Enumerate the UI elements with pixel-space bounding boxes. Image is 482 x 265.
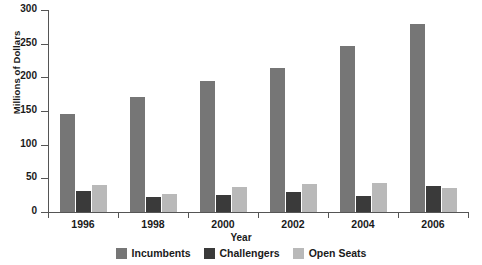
legend-label: Challengers: [220, 247, 280, 259]
legend-swatch-icon: [204, 248, 215, 259]
bar-group: [398, 10, 468, 212]
y-tick-label: 250: [20, 37, 37, 48]
legend-item-challengers: Challengers: [204, 247, 280, 259]
plot-area: 050100150200250300 199619982000200220042…: [48, 10, 468, 212]
bar-group: [118, 10, 188, 212]
bar-challengers-1996: [76, 191, 91, 212]
bar-group: [328, 10, 398, 212]
y-tick: 100: [41, 145, 48, 146]
bar-group: [258, 10, 328, 212]
bar-challengers-2002: [286, 192, 301, 212]
legend-label: Open Seats: [309, 247, 367, 259]
bar-challengers-2004: [356, 196, 371, 212]
y-tick-label: 300: [20, 3, 37, 14]
legend-label: Incumbents: [132, 247, 191, 259]
x-tick-label: 2004: [328, 218, 398, 230]
x-axis-title: Year: [0, 232, 482, 243]
legend-swatch-icon: [293, 248, 304, 259]
x-tick-label: 1998: [118, 218, 188, 230]
y-tick-label: 150: [20, 104, 37, 115]
y-tick-label: 100: [20, 138, 37, 149]
bar-chart: Millions of Dollars 050100150200250300 1…: [0, 0, 482, 265]
y-tick: 200: [41, 77, 48, 78]
bar-incumbents-2006: [410, 24, 425, 212]
y-tick-label: 200: [20, 70, 37, 81]
x-tick-label: 2000: [188, 218, 258, 230]
bar-challengers-2000: [216, 195, 231, 212]
bar-incumbents-2000: [200, 81, 215, 212]
bar-group: [48, 10, 118, 212]
bar-incumbents-2004: [340, 46, 355, 212]
y-tick: 250: [41, 44, 48, 45]
y-tick-label: 50: [26, 171, 37, 182]
bar-open-seats-1996: [92, 185, 107, 212]
bar-challengers-2006: [426, 186, 441, 212]
bar-group: [188, 10, 258, 212]
bar-incumbents-1996: [60, 114, 75, 212]
x-tick-label: 1996: [48, 218, 118, 230]
x-tick-label: 2006: [398, 218, 468, 230]
legend-item-incumbents: Incumbents: [116, 247, 191, 259]
legend-swatch-icon: [116, 248, 127, 259]
x-tick: [468, 212, 469, 218]
bar-incumbents-1998: [130, 97, 145, 212]
bar-incumbents-2002: [270, 68, 285, 212]
y-tick: 50: [41, 178, 48, 179]
bar-open-seats-1998: [162, 194, 177, 212]
bar-open-seats-2006: [442, 188, 457, 212]
bar-open-seats-2002: [302, 184, 317, 212]
y-tick: 150: [41, 111, 48, 112]
chart-legend: IncumbentsChallengersOpen Seats: [0, 247, 482, 259]
legend-item-open-seats: Open Seats: [293, 247, 367, 259]
y-tick: 300: [41, 10, 48, 11]
bar-open-seats-2000: [232, 187, 247, 212]
bar-challengers-1998: [146, 197, 161, 212]
x-tick-label: 2002: [258, 218, 328, 230]
bar-open-seats-2004: [372, 183, 387, 212]
y-tick-label: 0: [31, 205, 37, 216]
y-tick: 0: [41, 212, 48, 213]
